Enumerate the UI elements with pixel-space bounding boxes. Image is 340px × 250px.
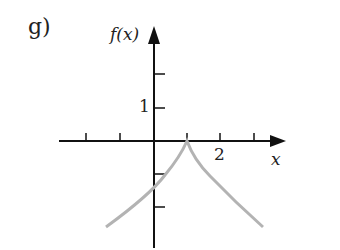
- y-axis-arrow-icon: [148, 26, 160, 44]
- function-curve: [106, 141, 263, 227]
- axes: [59, 38, 275, 248]
- x-ticks: [86, 133, 254, 141]
- graph: [0, 0, 340, 250]
- x-axis-arrow-icon: [270, 135, 286, 147]
